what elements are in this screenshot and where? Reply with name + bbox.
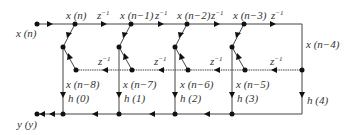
arrow-icon — [67, 53, 73, 60]
bottom-tap-label-1: x (n−7) — [122, 78, 157, 91]
bottom-tap-label-0: x (n−8) — [65, 78, 100, 91]
svg-text:z−1: z−1 — [210, 9, 224, 21]
top-tap-label-1: x (n−1) — [119, 9, 154, 22]
output-node — [35, 112, 40, 117]
bottom-tap-label-3: x (n−5) — [235, 78, 270, 91]
svg-text:z−1: z−1 — [96, 9, 110, 21]
center-tap-node — [300, 68, 305, 73]
coef-label-3: h (3) — [237, 92, 258, 105]
svg-text:z−1: z−1 — [154, 9, 168, 21]
fir-filter-diagram: x (n) y (y) x (n) x (n−1) x (n−2) x (n−3… — [0, 0, 349, 135]
coef-label-0: h (0) — [68, 92, 89, 105]
top-tap-label-2: x (n−2) — [176, 9, 211, 22]
arrow-icon — [66, 32, 72, 38]
input-node — [35, 22, 40, 27]
svg-text:z−1: z−1 — [270, 9, 284, 21]
svg-text:z−1: z−1 — [209, 55, 223, 67]
top-tap-label-3: x (n−3) — [232, 9, 267, 22]
coef-label-1: h (1) — [124, 92, 145, 105]
output-label: y (y) — [16, 118, 37, 131]
svg-text:z−1: z−1 — [97, 55, 111, 67]
bottom-tap-label-2: x (n−6) — [179, 78, 214, 91]
coef-label-4: h (4) — [307, 94, 328, 107]
center-tap-label: x (n−4) — [305, 38, 340, 51]
svg-text:z−1: z−1 — [153, 55, 167, 67]
arrow-down-icon — [60, 92, 66, 98]
top-tap-label-0: x (n) — [65, 9, 87, 22]
svg-text:z−1: z−1 — [269, 55, 283, 67]
input-label: x (n) — [15, 27, 37, 40]
coef-label-2: h (2) — [180, 92, 201, 105]
arrow-down-icon — [299, 92, 305, 98]
